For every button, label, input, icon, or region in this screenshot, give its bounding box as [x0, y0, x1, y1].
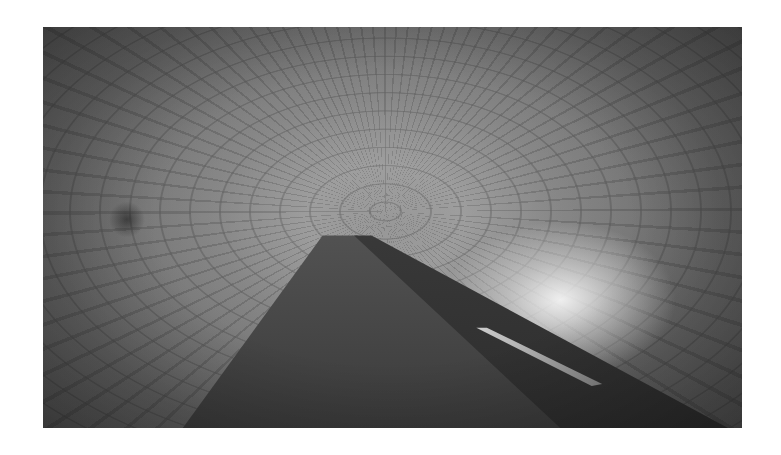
tunnel-photo: [43, 27, 742, 428]
vignette: [43, 27, 742, 428]
